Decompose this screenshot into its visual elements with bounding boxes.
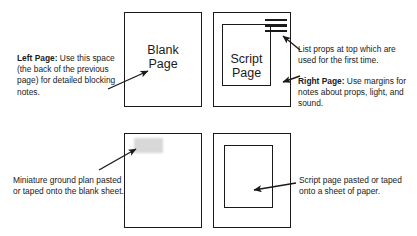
page-top-right-label: Script Page <box>223 52 270 80</box>
callout-props-top: List props at top which are used for the… <box>298 44 416 66</box>
arrow-layer <box>0 0 417 236</box>
script-page-inset-top: Script Page <box>222 24 271 86</box>
props-list-lines-icon <box>265 19 287 32</box>
callout-ground-plan: Miniature ground plan pasted or taped on… <box>13 175 125 197</box>
callout-right-page: Right Page: Use margins for notes about … <box>298 76 417 110</box>
page-top-left-label: Blank Page <box>125 43 201 71</box>
callout-left-page-lead: Left Page: <box>17 53 58 63</box>
callout-script-tape: Script page pasted or taped onto a sheet… <box>299 175 413 197</box>
diagram-canvas: Blank Page Script Page Blank Page Script… <box>0 0 417 236</box>
page-top-left-blank: Blank Page <box>124 12 202 107</box>
callout-left-page: Left Page: Use this space (the back of t… <box>17 53 129 98</box>
callout-right-page-lead: Right Page: <box>298 76 345 86</box>
script-page-inset-bottom: Script Page <box>224 145 273 208</box>
callout-script-tape-text: Script page pasted or taped onto a sheet… <box>299 175 402 196</box>
ground-plan-patch <box>134 138 163 153</box>
callout-ground-plan-text: Miniature ground plan pasted or taped on… <box>13 175 124 196</box>
callout-props-top-text: List props at top which are used for the… <box>298 44 396 65</box>
